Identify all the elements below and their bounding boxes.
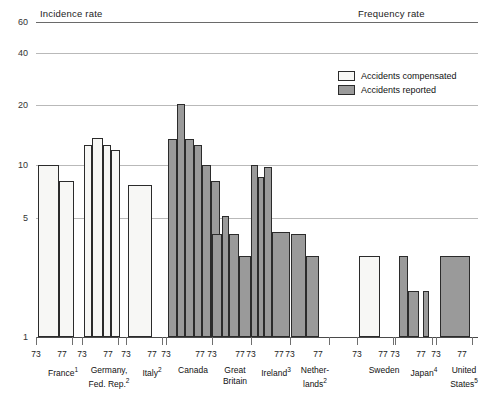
section-title-incidence-rate: Incidence rate <box>40 8 102 19</box>
y-axis-tick-5: 5 <box>6 213 28 223</box>
bar-segment-germany-2 <box>103 145 111 337</box>
bar-segment-japan-2 <box>423 291 429 337</box>
x-tick-16 <box>395 337 396 345</box>
bar-segment-great-britain-0 <box>212 234 222 337</box>
bar-segment-great-britain-1 <box>222 216 229 337</box>
year-label-0-73: 73 <box>23 349 49 359</box>
x-axis-ticks <box>36 337 478 346</box>
legend-item-accidents-compensated: Accidents compensated <box>338 70 457 82</box>
x-tick-2 <box>82 337 83 345</box>
bar-segment-great-britain-2 <box>229 234 239 337</box>
bar-segment-sweden-0 <box>359 256 380 337</box>
bar-segment-canada-4 <box>202 165 211 337</box>
section-title-frequency-rate: Frequency rate <box>358 8 425 19</box>
bar-segment-italy-0 <box>128 185 152 337</box>
legend-swatch-compensated-icon <box>338 71 355 81</box>
x-tick-12 <box>290 337 291 345</box>
year-label-13-77: 77 <box>305 349 331 359</box>
bar-segment-ireland-3 <box>272 232 290 337</box>
year-label-14-73: 73 <box>344 349 370 359</box>
bar-segment-germany-3 <box>111 150 120 337</box>
country-label-nether-lands: Nether-lands2 <box>280 365 350 389</box>
x-tick-5 <box>162 337 163 345</box>
bar-segment-france-1 <box>59 181 74 337</box>
y-axis-tick-1: 1 <box>6 332 28 342</box>
country-label-united-states: UnitedStates5 <box>428 365 484 389</box>
bar-segment-united-states-0 <box>440 256 470 337</box>
x-tick-18 <box>436 337 437 345</box>
year-label-8-73: 73 <box>199 349 225 359</box>
bar-segment-canada-0 <box>168 139 177 337</box>
chart-root: Incidence rate Frequency rate 6040201051… <box>0 0 484 398</box>
bar-segment-ireland-0 <box>251 165 258 337</box>
x-tick-0 <box>36 337 37 345</box>
x-tick-3 <box>118 337 119 345</box>
year-label-4-73: 73 <box>113 349 139 359</box>
bar-segment-canada-3 <box>194 145 202 337</box>
year-label-16-73: 73 <box>382 349 408 359</box>
year-label-10-73: 73 <box>238 349 264 359</box>
bar-segment-germany-1 <box>92 138 103 337</box>
gridline-60 <box>36 22 478 23</box>
x-tick-8 <box>212 337 213 345</box>
x-tick-10 <box>251 337 252 345</box>
year-label-19-77: 77 <box>449 349 475 359</box>
x-tick-13 <box>329 337 330 345</box>
year-label-18-73: 73 <box>423 349 449 359</box>
y-axis-tick-60: 60 <box>6 17 28 27</box>
year-label-12-73: 73 <box>277 349 303 359</box>
bar-segment-japan-0 <box>399 256 408 337</box>
y-axis-tick-40: 40 <box>6 48 28 58</box>
bar-segment-france-0 <box>38 165 59 337</box>
legend-label-reported: Accidents reported <box>361 85 436 95</box>
bar-segment-netherlands-0 <box>291 234 306 337</box>
x-tick-15 <box>393 337 394 345</box>
y-axis-tick-20: 20 <box>6 100 28 110</box>
legend-item-accidents-reported: Accidents reported <box>338 84 457 96</box>
bar-segment-japan-1 <box>408 291 419 337</box>
year-label-6-73: 73 <box>153 349 179 359</box>
x-tick-4 <box>126 337 127 345</box>
gridline-20 <box>36 105 478 106</box>
gridline-40 <box>36 53 478 54</box>
bar-segment-germany-0 <box>84 145 92 337</box>
legend-label-compensated: Accidents compensated <box>361 71 457 81</box>
x-tick-19 <box>472 337 473 345</box>
year-label-2-73: 73 <box>69 349 95 359</box>
bar-segment-canada-1 <box>177 104 185 337</box>
x-tick-6 <box>166 337 167 345</box>
bar-segment-canada-2 <box>185 139 194 337</box>
legend-swatch-reported-icon <box>338 85 355 95</box>
y-axis-tick-10: 10 <box>6 160 28 170</box>
bar-segment-ireland-2 <box>264 167 272 337</box>
x-tick-1 <box>72 337 73 345</box>
bar-segment-netherlands-1 <box>306 256 319 337</box>
x-tick-17 <box>432 337 433 345</box>
bar-segment-great-britain-3 <box>239 256 251 337</box>
chart-legend: Accidents compensated Accidents reported <box>338 70 457 98</box>
x-tick-14 <box>357 337 358 345</box>
